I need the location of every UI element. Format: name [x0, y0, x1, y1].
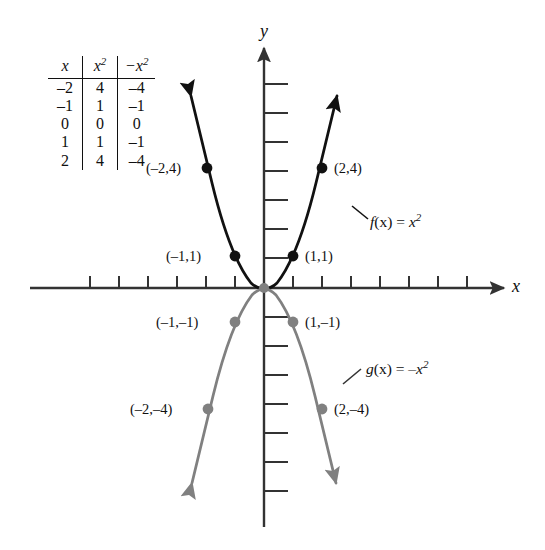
table-header-x: x — [48, 56, 83, 78]
point-f-2-4 — [317, 163, 328, 174]
g-curve-left-branch — [192, 289, 264, 483]
f-function-exponent: 2 — [416, 211, 422, 223]
table-row: 2 4 –4 — [48, 152, 155, 170]
point-label-g-1-neg1: (1,–1) — [305, 315, 340, 330]
point-f-neg2-4 — [202, 163, 213, 174]
f-label-leader-line — [352, 206, 368, 219]
point-label-g-neg2-neg4: (–2,–4) — [130, 402, 172, 417]
table-header-x-squared: x2 — [83, 56, 118, 78]
cell-neg-x-squared: 0 — [118, 115, 156, 133]
y-axis-label: y — [260, 22, 268, 40]
f-curve-left-branch — [191, 96, 264, 289]
f-function-arg: (x) = — [374, 213, 409, 230]
point-label-f-neg1-1: (–1,1) — [166, 249, 201, 264]
point-g-2-neg4 — [317, 404, 328, 415]
cell-x: 1 — [48, 133, 83, 151]
g-function-var: x — [416, 360, 423, 377]
point-label-f-neg2-4: (–2,4) — [146, 161, 181, 176]
g-label-leader-line — [343, 369, 361, 384]
point-f-1-1 — [288, 251, 299, 262]
table-header-neg-x-squared: −x2 — [118, 56, 156, 78]
cell-neg-x-squared: –1 — [118, 97, 156, 115]
table-row: 1 1 –1 — [48, 133, 155, 151]
cell-x-squared: 4 — [83, 152, 118, 170]
point-f-neg1-1 — [230, 251, 241, 262]
point-origin — [259, 283, 269, 293]
cell-x: 2 — [48, 152, 83, 170]
table-row: –1 1 –1 — [48, 97, 155, 115]
table-row: 0 0 0 — [48, 115, 155, 133]
cell-x-squared: 4 — [83, 78, 118, 97]
point-label-g-2-neg4: (2,–4) — [334, 402, 369, 417]
point-label-f-2-4: (2,4) — [334, 161, 362, 176]
table-row: –2 4 –4 — [48, 78, 155, 97]
point-g-neg1-neg1 — [230, 317, 241, 328]
cell-x: –1 — [48, 97, 83, 115]
point-g-neg2-neg4 — [203, 404, 214, 415]
cell-neg-x-squared: –4 — [118, 78, 156, 97]
point-label-g-neg1-neg1: (–1,–1) — [156, 315, 198, 330]
f-function-label: f(x) = x2 — [370, 212, 421, 230]
g-function-label: g(x) = –x2 — [366, 359, 428, 377]
g-function-arg: (x) = – — [374, 360, 416, 377]
table-header-row: x x2 −x2 — [48, 56, 155, 78]
g-function-name: g — [366, 360, 374, 377]
cell-neg-x-squared: –1 — [118, 133, 156, 151]
cell-x-squared: 1 — [83, 97, 118, 115]
f-function-var: x — [409, 213, 416, 230]
function-value-table: x x2 −x2 –2 4 –4 –1 1 –1 0 0 0 1 — [48, 56, 155, 170]
cell-x: –2 — [48, 78, 83, 97]
figure-canvas: x x2 −x2 –2 4 –4 –1 1 –1 0 0 0 1 — [0, 0, 545, 550]
cell-x-squared: 1 — [83, 133, 118, 151]
point-g-1-neg1 — [288, 317, 299, 328]
g-function-exponent: 2 — [423, 358, 429, 370]
x-axis-label: x — [512, 277, 520, 295]
cell-x-squared: 0 — [83, 115, 118, 133]
cell-x: 0 — [48, 115, 83, 133]
point-label-f-1-1: (1,1) — [305, 249, 333, 264]
